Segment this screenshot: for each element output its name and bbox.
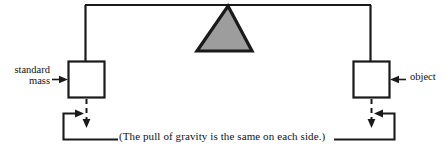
- left-connector-line: [64, 114, 119, 140]
- left-connector-arrowhead: [75, 110, 84, 118]
- triangle-fulcrum: [197, 6, 252, 51]
- diagram-canvas: standard mass object (The pull of gravit…: [0, 0, 445, 151]
- object-label: object: [410, 71, 436, 82]
- right-connector-line: [334, 114, 395, 140]
- left-mass-box: [69, 62, 105, 98]
- right-caption-connector: [334, 110, 395, 140]
- arrow-pointing-right-to-left-box: [52, 76, 68, 83]
- left-caption-connector: [64, 110, 119, 140]
- right-object-box: [354, 62, 390, 98]
- left-force-arrowhead: [83, 119, 91, 128]
- left-pointer-arrowhead: [59, 76, 68, 83]
- right-connector-arrowhead: [374, 110, 383, 118]
- right-pointer-arrowhead: [390, 76, 399, 83]
- standard-mass-label-line1: standard: [14, 64, 50, 75]
- standard-mass-label-line2: mass: [2, 75, 50, 86]
- balance-scale-diagram: [0, 0, 445, 151]
- standard-mass-label: standard mass: [2, 64, 50, 86]
- right-force-arrowhead: [368, 119, 376, 128]
- arrow-pointing-left-to-right-box: [390, 76, 406, 83]
- gravity-caption: (The pull of gravity is the same on each…: [119, 131, 325, 143]
